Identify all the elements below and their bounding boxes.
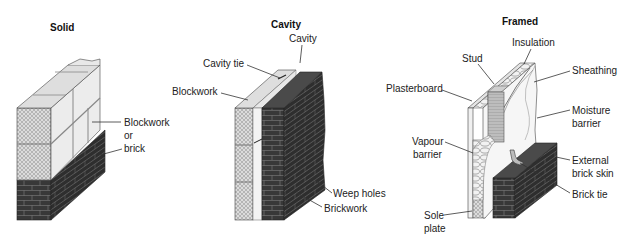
framed-label-vapour-barrier: Vapour barrier xyxy=(412,136,446,160)
cavity-title: Cavity xyxy=(271,19,301,30)
framed-plasterboard xyxy=(468,108,473,218)
cavity-blockwork-end xyxy=(235,108,253,220)
framed-label-sole-plate: Sole plate xyxy=(424,210,447,234)
framed-label-plasterboard: Plasterboard xyxy=(386,83,443,94)
framed-label-sheathing: Sheathing xyxy=(572,65,617,76)
cavity-label-brickwork: Brickwork xyxy=(324,203,368,214)
framed-label-moisture-barrier: Moisture barrier xyxy=(572,105,613,129)
framed-title: Framed xyxy=(502,16,538,27)
cavity-label-cavity-tie: Cavity tie xyxy=(203,58,245,69)
cavity-label-cavity: Cavity xyxy=(289,33,317,44)
cavity-gap xyxy=(253,108,262,220)
solid-panel: Solid Blockwork or brick xyxy=(17,22,172,220)
framed-panel: Framed Insulation Stud xyxy=(386,16,617,234)
framed-label-insulation: Insulation xyxy=(512,37,555,48)
cavity-brickwork-front xyxy=(262,108,284,220)
framed-label-external-brick-skin: External brick skin xyxy=(572,155,614,179)
solid-brick-front xyxy=(17,180,51,220)
framed-label-brick-tie: Brick tie xyxy=(572,189,608,200)
solid-title: Solid xyxy=(50,22,74,33)
cavity-label-weep-holes: Weep holes xyxy=(333,188,386,199)
cavity-label-blockwork: Blockwork xyxy=(172,86,219,97)
cavity-panel: Cavity Cavity Cavity tie Blockwork Weep … xyxy=(172,19,386,220)
wall-types-diagram: Solid Blockwork or brick Cavity Cavity xyxy=(0,0,633,248)
framed-brick-front xyxy=(493,178,515,218)
solid-label-blockwork-or-brick: Blockwork or brick xyxy=(124,117,172,154)
framed-label-stud: Stud xyxy=(462,53,483,64)
